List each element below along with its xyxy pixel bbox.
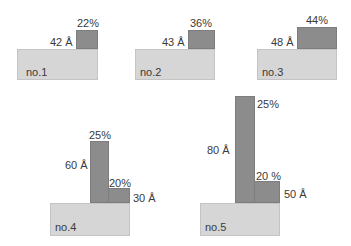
sample-name: no.1	[26, 67, 47, 78]
tall-layer-bar	[90, 141, 109, 203]
sample-name: no.2	[140, 67, 161, 78]
tall-fraction-label: 25%	[89, 130, 111, 141]
fraction-label: 22%	[77, 18, 99, 29]
short-layer-bar	[254, 181, 280, 203]
short-fraction-label: 20%	[109, 178, 131, 189]
thickness-label: 43 Å	[162, 37, 185, 48]
tall-fraction-label: 25%	[257, 99, 279, 110]
sample-name: no.5	[205, 222, 226, 233]
short-fraction-label: 20 %	[256, 171, 281, 182]
fraction-label: 36%	[190, 18, 212, 29]
thickness-label: 48 Å	[271, 37, 294, 48]
short-layer-bar	[108, 188, 130, 203]
sample-name: no.4	[55, 222, 76, 233]
tall-thickness-label: 80 Å	[207, 145, 230, 156]
thickness-label: 42 Å	[50, 37, 73, 48]
layer-bar	[188, 30, 215, 49]
short-thickness-label: 50 Å	[284, 189, 307, 200]
short-thickness-label: 30 Å	[133, 193, 156, 204]
layer-bar	[76, 30, 98, 49]
tall-thickness-label: 60 Å	[65, 160, 88, 171]
sample-name: no.3	[262, 67, 283, 78]
fraction-label: 44%	[306, 15, 328, 26]
tall-layer-bar	[235, 96, 255, 203]
layer-bar	[297, 27, 337, 49]
